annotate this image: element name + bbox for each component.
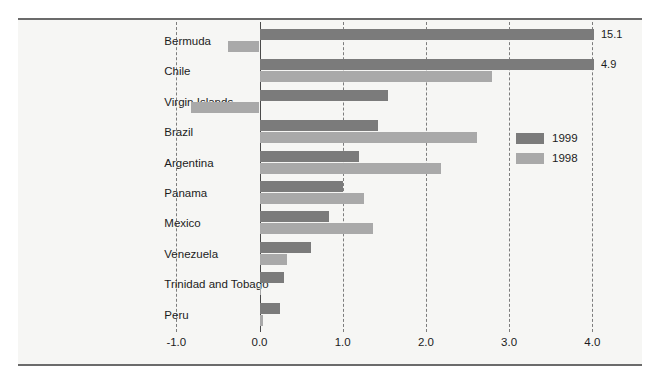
bar-row: Venezuela — [0, 239, 660, 270]
bar-1999-virgin-islands — [260, 90, 389, 101]
bar-1998-virgin-islands — [191, 102, 259, 113]
bar-1999-venezuela — [260, 242, 312, 253]
legend-label-1998: 1998 — [552, 151, 578, 166]
x-tick-label: 4.0 — [584, 336, 600, 348]
bar-1999-brazil — [260, 120, 378, 131]
bar-value-label: 15.1 — [601, 29, 622, 40]
legend-swatch-1998 — [516, 153, 544, 164]
x-axis-tick-labels: -1.00.01.02.03.04.0 — [0, 336, 660, 352]
bottom-rule — [18, 364, 642, 366]
x-tick-label: 2.0 — [418, 336, 434, 348]
bar-row: Virgin Islands — [0, 87, 660, 118]
bar-1998-venezuela — [260, 254, 287, 265]
bar-1998-mexico — [260, 223, 374, 234]
x-tick-label: 0.0 — [252, 336, 268, 348]
bar-1999-chile — [260, 59, 594, 70]
x-tick-label: 1.0 — [335, 336, 351, 348]
bar-1998-argentina — [260, 163, 441, 174]
bar-1998-brazil — [260, 132, 477, 143]
bar-row: Peru — [0, 300, 660, 331]
bar-1998-bermuda — [228, 41, 260, 52]
bar-1999-panama — [260, 181, 343, 192]
bar-row: Mexico — [0, 208, 660, 239]
chart-figure: BermudaChileVirgin IslandsBrazilArgentin… — [0, 0, 660, 385]
chart-legend: 1999 1998 — [516, 131, 594, 171]
bar-row: Trinidad and Tobago — [0, 269, 660, 300]
x-tick-label: 3.0 — [501, 336, 517, 348]
bar-row: Chile — [0, 56, 660, 87]
bar-1998-peru — [260, 315, 263, 326]
bar-1999-bermuda — [260, 29, 594, 40]
bar-1999-trinidad-and-tobago — [260, 272, 284, 283]
bar-value-label: 4.9 — [601, 59, 616, 70]
x-tick-label: -1.0 — [166, 336, 186, 348]
legend-label-1999: 1999 — [552, 131, 578, 146]
legend-swatch-1999 — [516, 133, 544, 144]
bar-1999-mexico — [260, 211, 330, 222]
bar-row: Bermuda — [0, 26, 660, 57]
plot-area: BermudaChileVirgin IslandsBrazilArgentin… — [0, 22, 660, 332]
bar-1999-peru — [260, 303, 281, 314]
bar-1998-panama — [260, 193, 364, 204]
bar-1998-trinidad-and-tobago — [260, 284, 261, 295]
bar-1999-argentina — [260, 151, 360, 162]
top-rule — [18, 18, 642, 20]
bar-row: Panama — [0, 178, 660, 209]
bar-1998-chile — [260, 71, 493, 82]
bar-rows: BermudaChileVirgin IslandsBrazilArgentin… — [0, 22, 660, 332]
